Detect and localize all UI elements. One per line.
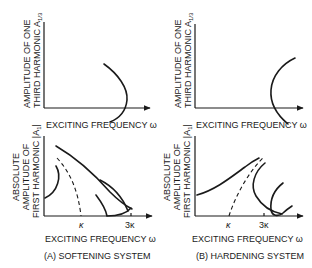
tick-label-3kappa: 3κ (259, 220, 269, 230)
x-axis-label: EXCITING FREQUENCY ω (196, 120, 307, 130)
x-axis-label: EXCITING FREQUENCY ω (45, 234, 156, 244)
main-response-curve (197, 158, 259, 195)
y-axis-label-line2: THIRD HARMONIC A1/3 (32, 12, 43, 108)
third-harmonic-curve (271, 58, 295, 124)
y-axis-label-line3: FIRST HARMONIC |A1| (31, 124, 42, 218)
panel-softening-third-harmonic: AMPLITUDE OF ONE THIRD HARMONIC A1/3 EXC… (22, 12, 157, 130)
small-arc-curve (45, 166, 59, 198)
frequency-response-diagram: AMPLITUDE OF ONE THIRD HARMONIC A1/3 EXC… (0, 0, 312, 268)
y-axis-label-line2: THIRD HARMONIC A1/3 (183, 12, 194, 108)
y-axis-label-line2: AMPLITUDE OF (172, 143, 182, 210)
x-axis-label: EXCITING FREQUENCY ω (46, 120, 157, 130)
panel-softening-first-harmonic: ABSOLUTE AMPLITUDE OF FIRST HARMONIC |A1… (11, 124, 156, 261)
tick-label-kappa: κ (226, 220, 231, 230)
y-axis-label-line1: AMPLITUDE OF ONE (173, 19, 183, 108)
x-axis-label: EXCITING FREQUENCY ω (192, 234, 303, 244)
y-axis-label-line1: ABSOLUTE (11, 153, 21, 201)
panel-hardening-first-harmonic: ABSOLUTE AMPLITUDE OF FIRST HARMONIC |A1… (162, 124, 304, 261)
y-axis-label-line3: FIRST HARMONIC |A1| (182, 124, 193, 218)
caption-softening: (A) SOFTENING SYSTEM (44, 251, 151, 261)
y-axis-label-line1: ABSOLUTE (162, 153, 172, 201)
tick-label-kappa: κ (79, 220, 84, 230)
caption-hardening: (B) HARDENING SYSTEM (196, 251, 304, 261)
main-response-curve (56, 146, 132, 209)
panel-hardening-third-harmonic: AMPLITUDE OF ONE THIRD HARMONIC A1/3 EXC… (173, 12, 307, 130)
y-axis-label-line2: AMPLITUDE OF (21, 143, 31, 210)
backbone-dashed-curve (57, 158, 81, 216)
upper-right-branch-curve (271, 183, 292, 215)
tick-label-3kappa: 3κ (125, 220, 135, 230)
y-axis-label-line1: AMPLITUDE OF ONE (22, 19, 32, 108)
third-harmonic-curve (104, 64, 127, 122)
